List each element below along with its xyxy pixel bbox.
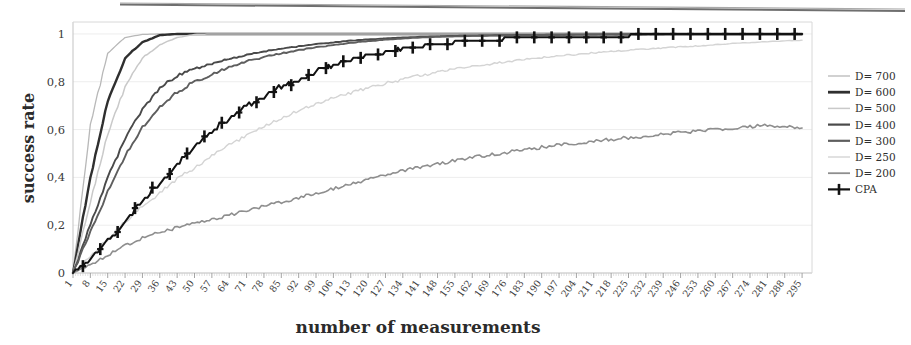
legend-label: D= 600 — [855, 86, 896, 98]
legend-item-d--700[interactable]: D= 700 — [828, 70, 896, 82]
x-axis-title: number of measurements — [296, 317, 541, 337]
x-tick-label: 260 — [698, 278, 717, 299]
x-tick-label: 1 — [62, 278, 74, 289]
legend-label: D= 300 — [855, 135, 896, 147]
x-tick-label: 232 — [628, 278, 647, 299]
x-tick-label: 134 — [385, 278, 404, 299]
legend-item-d--500[interactable]: D= 500 — [828, 102, 896, 114]
x-tick-label: 169 — [472, 278, 491, 299]
x-tick-label: 85 — [267, 278, 283, 294]
x-tick-label: 57 — [198, 278, 214, 294]
y-tick-label: 1 — [58, 27, 65, 41]
x-tick-label: 113 — [333, 278, 352, 299]
x-tick-label: 120 — [350, 278, 369, 299]
y-tick-label: 0,4 — [47, 170, 65, 184]
x-tick-label: 71 — [232, 278, 248, 294]
y-tick-labels: 00,20,40,60,81 — [47, 27, 65, 280]
legend-item-d--400[interactable]: D= 400 — [828, 119, 896, 131]
x-tick-label: 225 — [611, 278, 630, 299]
success-rate-line-chart: 00,20,40,60,81 1815222936435057647178859… — [0, 0, 911, 345]
x-tick-label: 64 — [215, 278, 231, 294]
x-tick-label: 295 — [784, 278, 803, 299]
x-tick-label: 162 — [454, 278, 473, 299]
y-tick-label: 0,6 — [47, 123, 65, 137]
x-tick-label: 204 — [559, 278, 578, 299]
legend-label: D= 250 — [855, 151, 896, 163]
chart-legend: D= 700D= 600D= 500D= 400D= 300D= 250D= 2… — [828, 70, 896, 195]
x-tick-label: 78 — [250, 278, 266, 294]
chart-figure: 00,20,40,60,81 1815222936435057647178859… — [0, 0, 911, 345]
x-tick-label: 22 — [111, 278, 127, 294]
x-tick-label: 253 — [680, 278, 699, 299]
x-tick-label: 50 — [180, 278, 196, 294]
x-tick-label: 183 — [507, 278, 526, 299]
x-tick-label: 274 — [732, 278, 751, 299]
x-tick-label: 8 — [80, 278, 92, 289]
x-tick-label: 36 — [145, 278, 161, 294]
x-tick-label: 29 — [128, 278, 144, 294]
x-tick-label: 239 — [645, 278, 664, 299]
legend-label: D= 500 — [855, 102, 896, 114]
x-tick-label: 127 — [368, 278, 387, 299]
y-tick-label: 0,8 — [47, 75, 65, 89]
x-tick-label: 288 — [767, 278, 786, 299]
x-tick-label: 141 — [402, 278, 421, 299]
x-tick-label: 246 — [663, 278, 682, 299]
legend-item-d--250[interactable]: D= 250 — [828, 151, 896, 163]
y-tick-label: 0,2 — [47, 218, 65, 232]
legend-label: D= 200 — [855, 167, 896, 179]
x-tick-label: 148 — [420, 278, 439, 299]
legend-item-cpa[interactable]: CPA — [828, 183, 877, 195]
x-tick-label: 155 — [437, 278, 456, 299]
y-tick-label: 0 — [58, 266, 65, 280]
x-tick-label: 43 — [163, 278, 179, 294]
x-tick-label: 15 — [93, 278, 109, 294]
x-tick-label: 197 — [541, 278, 560, 299]
x-tick-label: 267 — [715, 278, 734, 299]
x-tick-label: 106 — [316, 278, 335, 299]
x-tick-label: 281 — [750, 278, 769, 299]
plot-background — [73, 22, 812, 273]
legend-item-d--600[interactable]: D= 600 — [828, 86, 896, 98]
x-tick-label: 190 — [524, 278, 543, 299]
legend-item-d--300[interactable]: D= 300 — [828, 135, 896, 147]
x-tick-label: 176 — [489, 278, 508, 299]
y-axis-title: success rate — [19, 93, 38, 203]
x-tick-label: 211 — [576, 278, 595, 299]
legend-label: D= 700 — [855, 70, 896, 82]
legend-item-d--200[interactable]: D= 200 — [828, 167, 896, 179]
x-tick-label: 92 — [284, 278, 300, 294]
x-tick-label: 218 — [593, 278, 612, 299]
legend-label: D= 400 — [855, 119, 896, 131]
x-axis-ticks — [73, 273, 802, 278]
legend-label: CPA — [855, 183, 877, 195]
x-tick-labels: 1815222936435057647178859299106113120127… — [62, 278, 804, 299]
